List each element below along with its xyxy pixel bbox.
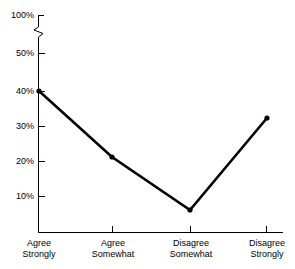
x-tick-label-line2: Somewhat — [147, 249, 235, 260]
data-point-marker — [187, 207, 192, 212]
x-tick-label-agree-somewhat: Agree Somewhat — [69, 238, 157, 260]
y-axis-break-zigzag — [34, 27, 43, 37]
line-chart: 100% 50% 40% 30% 20% 10% Agree Strongly … — [0, 0, 295, 269]
data-point-marker — [264, 115, 269, 120]
data-point-marker — [36, 88, 41, 93]
x-tick-label-line1: Agree — [69, 238, 157, 249]
x-tick-label-line2: Strongly — [223, 249, 295, 260]
y-axis-top-bracket — [39, 16, 45, 28]
y-tick-label-100: 100% — [2, 10, 34, 20]
x-tick-label-line1: Disagree — [223, 238, 295, 249]
data-series-line — [39, 91, 267, 210]
data-point-marker — [109, 154, 114, 159]
x-tick-label-line2: Somewhat — [69, 249, 157, 260]
y-tick-label-10: 10% — [2, 191, 34, 201]
x-tick-label-disagree-strongly: Disagree Strongly — [223, 238, 295, 260]
x-tick-label-disagree-somewhat: Disagree Somewhat — [147, 238, 235, 260]
chart-plot-area — [0, 0, 295, 269]
y-tick-label-50: 50% — [2, 48, 34, 58]
y-tick-label-30: 30% — [2, 121, 34, 131]
y-tick-label-20: 20% — [2, 156, 34, 166]
y-tick-label-40: 40% — [2, 86, 34, 96]
x-tick-label-line1: Disagree — [147, 238, 235, 249]
